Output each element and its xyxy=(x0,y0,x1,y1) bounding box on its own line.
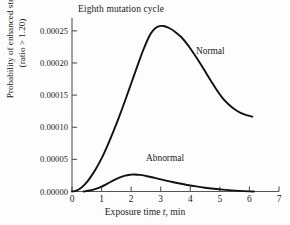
y-tick-label: 0.00010 xyxy=(4,122,68,132)
x-tick-label: 4 xyxy=(180,194,200,204)
x-tick-label: 7 xyxy=(269,194,289,204)
x-tick-label: 5 xyxy=(210,194,230,204)
axes xyxy=(72,18,279,192)
y-tick-label: 0.00000 xyxy=(4,187,68,197)
x-axis-title-suffix: , min xyxy=(166,206,186,217)
x-axis-title-prefix: Exposure time xyxy=(105,206,163,217)
y-axis-title: Probability of enhanced strain (ratio > … xyxy=(5,0,31,123)
curve-abnormal xyxy=(84,175,254,192)
x-axis-title: Exposure time t, min xyxy=(0,206,290,217)
x-tick-label: 6 xyxy=(239,194,259,204)
x-tick-label: 1 xyxy=(92,194,112,204)
series-label-normal: Normal xyxy=(196,46,225,56)
curve-normal xyxy=(72,26,252,192)
x-tick-label: 0 xyxy=(62,194,82,204)
x-tick-label: 2 xyxy=(121,194,141,204)
x-tick-label: 3 xyxy=(151,194,171,204)
data-curves xyxy=(72,26,254,192)
chart-figure: Eighth mutation cycle 0.000000.000050.00… xyxy=(0,0,290,225)
y-tick-label: 0.00005 xyxy=(4,154,68,164)
y-axis-title-line1: Probability of enhanced strain xyxy=(5,0,17,123)
y-axis-title-line2: (ratio > 1.20) xyxy=(17,0,29,123)
series-label-abnormal: Abnormal xyxy=(146,153,184,163)
